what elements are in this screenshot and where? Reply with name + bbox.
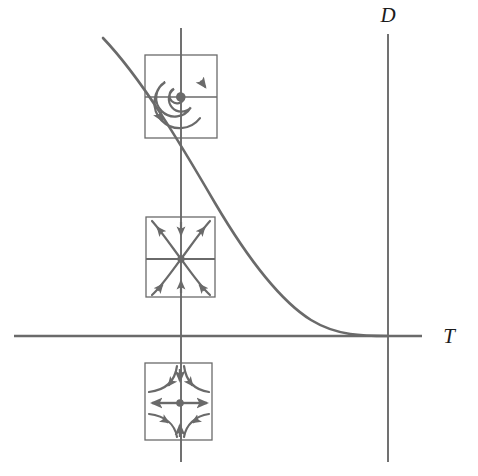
- inset-saddle-curve-lower-right: [184, 414, 209, 437]
- inset-stable-node-curve-lower-right: [181, 259, 210, 295]
- inset-stable-node-fixed-point-dot: [177, 255, 184, 262]
- inset-spiral-fixed-point-dot: [176, 92, 185, 101]
- inset-saddle-curve-upper-left: [149, 366, 177, 392]
- inset-saddle: [145, 363, 212, 440]
- trace-determinant-figure: D T: [0, 0, 478, 476]
- inset-saddle-curve-arrow-upper-right: [189, 381, 193, 386]
- phase-plane-diagram: D T: [0, 0, 478, 476]
- inset-saddle-curve-upper-right: [184, 366, 209, 392]
- axes-group: [14, 28, 422, 462]
- inset-saddle-curve-arrow-upper-left: [169, 381, 173, 386]
- inset-saddle-curve-lower-left: [149, 414, 177, 437]
- inset-saddle-fixed-point-dot: [176, 399, 184, 407]
- inset-stable-node-curve-upper-left: [152, 221, 181, 259]
- inset-saddle-curve-arrow-lower-left: [163, 419, 169, 423]
- inset-stable-node-curve-upper-right: [181, 221, 210, 259]
- inset-spiral-arrow-upper-right: [201, 81, 206, 88]
- trace-axis-label: T: [443, 324, 456, 348]
- inset-spiral-trajectory: [154, 82, 200, 128]
- inset-stable-node-curve-lower-left: [152, 259, 181, 295]
- inset-stable-node: [146, 217, 215, 297]
- determinant-axis-label: D: [379, 3, 395, 27]
